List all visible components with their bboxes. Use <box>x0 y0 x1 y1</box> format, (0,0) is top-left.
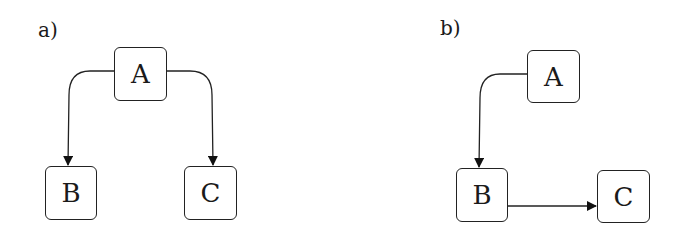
edge-a-A-B <box>68 71 114 165</box>
panel-a-label: a) <box>38 20 58 40</box>
panel-b-node-c: C <box>597 170 650 223</box>
edge-a-A-C <box>166 71 213 165</box>
panel-b-node-b: B <box>456 168 508 222</box>
panel-a-node-a: A <box>114 47 167 101</box>
panel-a-node-c: C <box>184 166 237 220</box>
panel-a-node-b: B <box>45 166 97 220</box>
panel-b-node-a: A <box>527 50 580 103</box>
edges-layer <box>0 0 684 237</box>
panel-b-label: b) <box>440 18 461 38</box>
edge-b-A-B <box>479 74 527 167</box>
